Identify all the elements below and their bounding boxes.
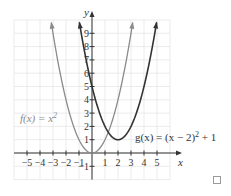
x-tick-label: 2 — [116, 157, 121, 168]
x-tick-label: 1 — [103, 157, 108, 168]
y-tick-label: 9 — [84, 28, 89, 39]
axis-labels: −5−4−3−2−112345−1123456789xy — [22, 6, 183, 172]
y-tick-label: 8 — [84, 41, 89, 52]
arrow-icon — [129, 22, 134, 29]
x-tick-label: −4 — [35, 157, 46, 168]
x-tick-label: 3 — [129, 157, 134, 168]
answer-checkbox[interactable] — [213, 176, 221, 184]
y-tick-label: 3 — [84, 108, 89, 119]
x-tick-label: 4 — [142, 157, 147, 168]
g-curve-label: g(x) = (x − 2)2 + 1 — [135, 130, 216, 144]
x-tick-label: 5 — [155, 157, 160, 168]
y-tick-label: 5 — [84, 81, 89, 92]
function-graph: −5−4−3−2−112345−1123456789xy f(x) = x2 g… — [0, 0, 231, 196]
y-tick-label: 4 — [84, 94, 89, 105]
y-tick-label: 1 — [84, 134, 89, 145]
y-axis-label: y — [83, 6, 89, 18]
f-curve-label: f(x) = x2 — [20, 111, 57, 125]
arrow-icon — [50, 22, 55, 29]
y-tick-label: −1 — [78, 161, 89, 172]
y-tick-label: 7 — [84, 54, 89, 65]
y-tick-label: 6 — [84, 68, 89, 79]
x-tick-label: −2 — [61, 157, 72, 168]
x-tick-label: −5 — [22, 157, 33, 168]
x-axis-label: x — [177, 156, 183, 168]
x-tick-label: −3 — [48, 157, 59, 168]
y-tick-label: 2 — [84, 121, 89, 132]
